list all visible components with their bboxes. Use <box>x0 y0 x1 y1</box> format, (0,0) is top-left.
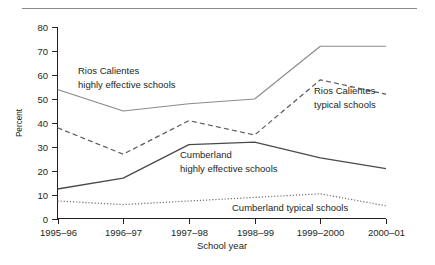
series-annotations: Rios Calienteshighly effective schoolsRi… <box>78 65 376 213</box>
x-axis-ticks <box>59 219 387 225</box>
x-tick-label: 1997–98 <box>171 227 208 238</box>
y-axis-title: Percent <box>15 108 24 137</box>
line-chart-plot: 01020304050607080 Percent 1995–961996–97… <box>0 0 435 265</box>
x-axis-title: School year <box>197 240 247 251</box>
series-label: typical schools <box>314 99 376 110</box>
series-label: Rios Calientes <box>78 65 139 76</box>
x-tick-label: 1995–96 <box>40 227 77 238</box>
series-label: Cumberland typical schools <box>232 202 348 213</box>
series-label: Rios Calientes <box>314 85 375 96</box>
y-tick-label: 60 <box>37 70 48 81</box>
series-label: highly effective schools <box>78 79 176 90</box>
y-tick-label: 80 <box>37 22 48 33</box>
x-tick-label: 1996–97 <box>105 227 142 238</box>
x-tick-label: 1999–2000 <box>297 227 345 238</box>
series-label: Cumberland <box>180 149 232 160</box>
x-axis-group: 1995–961996–971997–981998–991999–2000200… <box>40 219 405 252</box>
y-tick-label: 20 <box>37 166 48 177</box>
chart-figure: 01020304050607080 Percent 1995–961996–97… <box>0 0 435 265</box>
y-tick-label: 0 <box>43 214 48 225</box>
y-tick-label: 30 <box>37 142 48 153</box>
y-tick-label: 40 <box>37 118 48 129</box>
y-tick-label: 70 <box>37 46 48 57</box>
x-tick-label: 2000–01 <box>368 227 405 238</box>
y-tick-label: 50 <box>37 94 48 105</box>
x-tick-label: 1998–99 <box>237 227 274 238</box>
y-tick-label: 10 <box>37 190 48 201</box>
y-axis-ticks <box>52 28 58 220</box>
x-axis-tick-labels: 1995–961996–971997–981998–991999–2000200… <box>40 227 405 238</box>
y-axis-tick-labels: 01020304050607080 <box>37 22 48 225</box>
y-axis-group: 01020304050607080 Percent <box>15 22 58 225</box>
series-label: highly effective schools <box>180 163 278 174</box>
